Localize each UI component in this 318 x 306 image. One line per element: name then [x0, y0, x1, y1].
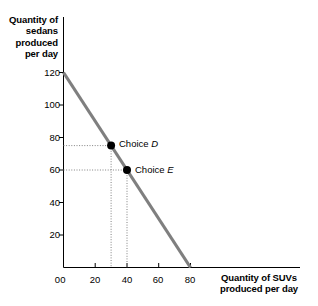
chart-plot-area — [0, 0, 318, 306]
y-axis-ticks — [59, 73, 64, 236]
leader-lines — [64, 146, 128, 268]
x-axis-ticks — [95, 263, 190, 268]
data-point-choice-e[interactable] — [123, 166, 131, 174]
data-point-choice-d[interactable] — [107, 142, 115, 150]
chart-figure: Quantity of sedans produced per day Quan… — [0, 0, 318, 306]
